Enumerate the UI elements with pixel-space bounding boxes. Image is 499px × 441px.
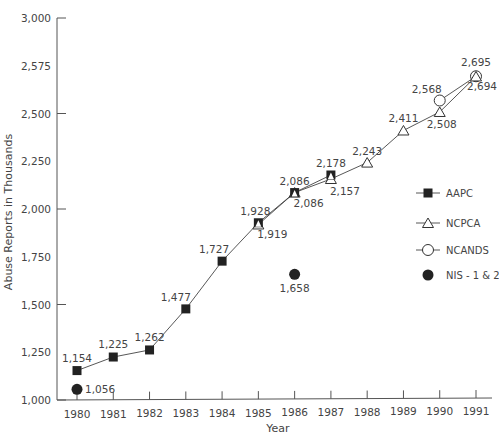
- legend-label: NCPCA: [446, 218, 480, 229]
- x-tick-label: 1991: [463, 405, 490, 417]
- circle-marker-icon: [423, 245, 434, 256]
- data-label: 1,225: [98, 338, 128, 350]
- data-label: 2,086: [280, 175, 310, 187]
- x-tick-label: 1982: [136, 407, 163, 419]
- x-tick-label: 1983: [172, 407, 199, 419]
- data-label: 1,658: [280, 282, 310, 294]
- y-tick-label: 3,000: [21, 12, 51, 24]
- dot-marker-icon: [72, 384, 83, 395]
- x-tick-label: 1984: [209, 407, 236, 419]
- data-label: 1,919: [257, 228, 287, 240]
- square-marker-icon: [424, 189, 433, 198]
- data-label: 2,568: [412, 83, 442, 95]
- y-tick-label: 1,000: [21, 394, 51, 406]
- x-tick-label: 1986: [281, 406, 308, 418]
- data-label: 1,262: [135, 331, 165, 343]
- data-label: 1,154: [62, 352, 92, 364]
- line-chart: 1,0001,2501,5001,7502,0002,2502,5002,575…: [0, 0, 499, 441]
- data-label: 2,086: [294, 197, 324, 209]
- square-marker-icon: [73, 366, 82, 375]
- y-tick-label: 1,750: [21, 251, 51, 263]
- square-marker-icon: [218, 257, 227, 266]
- data-label: 1,928: [240, 205, 270, 217]
- data-label: 1,056: [85, 383, 115, 395]
- data-label: 2,178: [316, 157, 346, 169]
- x-axis-title: Year: [265, 422, 290, 435]
- x-tick-label: 1980: [64, 408, 91, 420]
- legend-label: NIS - 1 & 2: [446, 270, 499, 281]
- x-tick-label: 1981: [100, 408, 127, 420]
- square-marker-icon: [181, 304, 190, 313]
- x-tick-label: 1985: [245, 407, 272, 419]
- y-tick-label: 2,500: [21, 108, 51, 120]
- x-tick-label: 1989: [390, 405, 417, 417]
- y-tick-label: 2,000: [21, 203, 51, 215]
- y-tick-label: 1,500: [21, 299, 51, 311]
- data-label: 2,157: [330, 185, 360, 197]
- circle-marker-icon: [434, 95, 445, 106]
- x-tick-label: 1988: [354, 406, 381, 418]
- data-label: 2,508: [427, 118, 457, 130]
- x-tick-label: 1990: [426, 405, 453, 417]
- data-label: 2,695: [461, 56, 491, 68]
- y-axis-title: Abuse Reports in Thousands: [2, 134, 15, 291]
- y-tick-label: 2,250: [21, 155, 51, 167]
- data-label: 2,243: [352, 145, 382, 157]
- triangle-marker-icon: [398, 125, 409, 134]
- data-label: 2,411: [388, 112, 418, 124]
- y-tick-label: 1,250: [21, 346, 51, 358]
- legend-label: AAPC: [446, 188, 473, 199]
- square-marker-icon: [109, 353, 118, 362]
- x-axis-line: [57, 398, 492, 400]
- x-tick-label: 1987: [318, 406, 345, 418]
- y-tick-label: 2,575: [21, 60, 51, 72]
- dot-marker-icon: [289, 269, 300, 280]
- dot-marker-icon: [423, 270, 434, 281]
- legend-label: NCANDS: [446, 245, 489, 256]
- legend: AAPCNCPCANCANDSNIS - 1 & 2: [416, 188, 499, 281]
- data-label: 1,477: [161, 291, 191, 303]
- square-marker-icon: [145, 345, 154, 354]
- data-label: 1,727: [199, 243, 229, 255]
- data-label: 2,694: [467, 80, 497, 92]
